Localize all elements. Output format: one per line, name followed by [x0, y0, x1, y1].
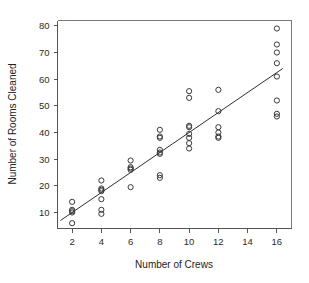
- data-point: [187, 141, 192, 146]
- data-point: [128, 185, 133, 190]
- data-points: [70, 26, 280, 226]
- y-tick-label: 10: [39, 207, 50, 218]
- y-tick-label: 80: [39, 20, 50, 31]
- data-point: [274, 42, 279, 47]
- y-tick-label: 60: [39, 74, 50, 85]
- data-point: [99, 178, 104, 183]
- y-tick-label: 20: [39, 180, 50, 191]
- x-tick-label: 16: [272, 236, 283, 247]
- x-tick-label: 4: [99, 236, 104, 247]
- y-tick-label: 40: [39, 127, 50, 138]
- y-tick-label: 50: [39, 100, 50, 111]
- frame-top-right: [58, 21, 292, 229]
- y-tick-label: 70: [39, 47, 50, 58]
- x-tick-label: 8: [157, 236, 162, 247]
- data-point: [187, 95, 192, 100]
- x-axis-title: Number of Crews: [135, 259, 213, 270]
- data-point: [157, 127, 162, 132]
- x-tick-label: 6: [128, 236, 133, 247]
- data-point: [70, 221, 75, 226]
- data-point: [128, 158, 133, 163]
- data-point: [274, 26, 279, 31]
- x-tick-label: 12: [213, 236, 224, 247]
- x-axis-ticks: 246810121416: [69, 229, 282, 247]
- y-tick-label: 30: [39, 154, 50, 165]
- y-axis-ticks: 1020304050607080: [39, 20, 58, 218]
- data-point: [187, 89, 192, 94]
- plot-canvas: 1020304050607080 246810121416 Number of …: [0, 0, 309, 283]
- plot-frame: [58, 21, 292, 229]
- data-point: [274, 61, 279, 66]
- regression-line: [60, 69, 282, 221]
- data-point: [99, 197, 104, 202]
- data-point: [187, 146, 192, 151]
- x-tick-label: 10: [184, 236, 195, 247]
- data-point: [216, 125, 221, 130]
- data-point: [216, 87, 221, 92]
- x-tick-label: 14: [242, 236, 253, 247]
- y-axis-title: Number of Rooms Cleaned: [7, 63, 18, 184]
- data-point: [70, 199, 75, 204]
- x-tick-label: 2: [69, 236, 74, 247]
- data-point: [274, 98, 279, 103]
- data-point: [274, 50, 279, 55]
- scatter-plot-figure: 1020304050607080 246810121416 Number of …: [0, 0, 309, 283]
- data-point: [274, 74, 279, 79]
